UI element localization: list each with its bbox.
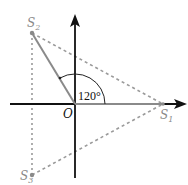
s3-label: S3 [20,169,33,185]
dashed-line-s3-s1 [32,104,163,175]
angle-label: 120° [78,89,101,103]
vector-diagram: 120° O S1 S2 S3 [0,0,188,185]
s2-label: S2 [27,16,40,32]
s1-label: S1 [160,108,173,124]
point-s2 [30,31,34,35]
origin-label: O [63,107,73,121]
s3-subscript: 3 [28,176,33,185]
vector-os2 [32,33,75,104]
s2-letter: S [27,16,35,30]
point-s1 [161,102,165,106]
s2-subscript: 2 [34,23,40,32]
s1-letter: S [160,108,168,122]
s3-letter: S [20,169,28,183]
s1-subscript: 1 [168,115,173,124]
arc-endpoint-dot [59,77,62,80]
